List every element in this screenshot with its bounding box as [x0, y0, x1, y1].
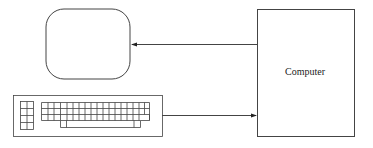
monitor-icon	[46, 9, 130, 79]
computer-label: Computer	[285, 66, 325, 77]
keyboard-icon	[14, 96, 163, 137]
main-keys	[42, 103, 150, 128]
numpad	[21, 102, 34, 130]
monitor-node	[46, 9, 130, 79]
